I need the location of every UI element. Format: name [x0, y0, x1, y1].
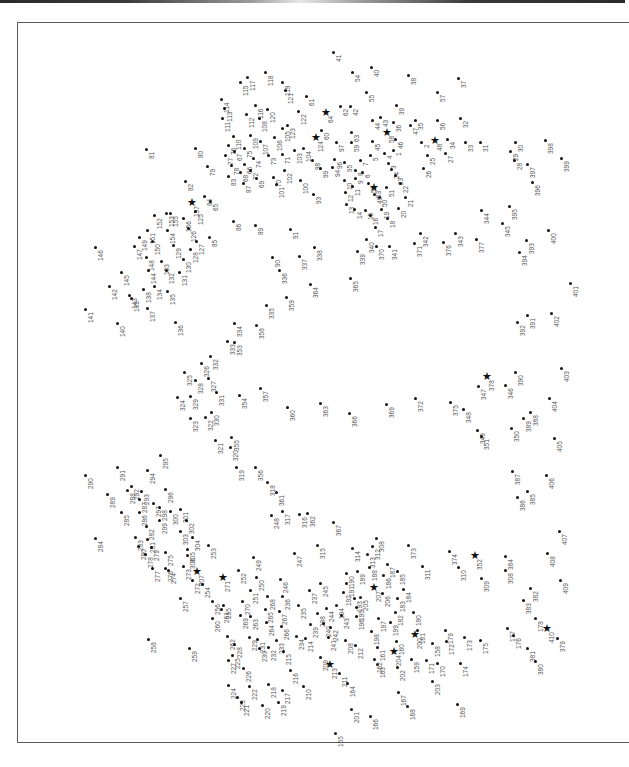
puzzle-dot: [279, 578, 282, 581]
puzzle-dot: [189, 395, 192, 398]
puzzle-dot: [436, 91, 439, 94]
dot-number-label: 373: [410, 548, 417, 559]
puzzle-dot: [407, 544, 410, 547]
puzzle-dot: [373, 193, 376, 196]
puzzle-dot: [255, 576, 258, 579]
puzzle-dot: [273, 136, 276, 139]
dot-number-label: 267: [281, 614, 288, 625]
puzzle-dot: [349, 105, 352, 108]
dot-number-label: 340: [368, 242, 375, 253]
dot-number-label: 218: [270, 687, 277, 698]
dot-number-label: 86: [235, 224, 242, 231]
puzzle-dot: [281, 127, 284, 130]
dot-number-label: 174: [462, 666, 469, 677]
dot-number-label: 135: [169, 294, 176, 305]
dot-number-label: 11: [354, 189, 361, 196]
dot-number-label: 339: [359, 254, 366, 265]
puzzle-dot: [553, 437, 556, 440]
puzzle-dot: [394, 611, 397, 614]
puzzle-dot: [264, 608, 267, 611]
dot-number-label: 9: [357, 180, 364, 184]
puzzle-dot: [164, 551, 167, 554]
puzzle-dot: [371, 119, 374, 122]
dot-number-label: 89: [257, 228, 264, 235]
puzzle-dot: [449, 401, 452, 404]
puzzle-dot: [158, 519, 161, 522]
puzzle-dot: [299, 179, 302, 182]
puzzle-dot: [345, 203, 348, 206]
dot-number-label: 30: [517, 145, 524, 152]
puzzle-dot: [343, 179, 346, 182]
dot-number-label: 7: [362, 162, 369, 166]
puzzle-dot: [165, 212, 168, 215]
dot-number-label: 302: [188, 523, 195, 534]
puzzle-dot: [446, 138, 449, 141]
dot-number-label: 326: [203, 366, 210, 377]
puzzle-dot: [254, 224, 257, 227]
puzzle-dot: [459, 117, 462, 120]
dot-number-label: 131: [181, 275, 188, 286]
puzzle-dot: [211, 617, 214, 620]
puzzle-dot: [246, 76, 249, 79]
puzzle-dot: [332, 51, 335, 54]
puzzle-dot: [243, 147, 246, 150]
puzzle-dot: [569, 282, 572, 285]
dot-number-label: 270: [244, 604, 251, 615]
puzzle-dot: [457, 566, 460, 569]
puzzle-dot: [187, 227, 190, 230]
dot-number-label: 229: [251, 640, 258, 651]
puzzle-dot: [534, 660, 537, 663]
dot-number-label: 361: [278, 495, 285, 506]
puzzle-dot: [182, 217, 185, 220]
puzzle-dot: [302, 147, 305, 150]
puzzle-dot: [480, 577, 483, 580]
puzzle-dot: [265, 621, 268, 624]
puzzle-dot: [145, 148, 148, 151]
dot-number-label: 296: [167, 492, 174, 503]
puzzle-dot: [397, 691, 400, 694]
dot-number-label: 254: [204, 587, 211, 598]
puzzle-dot: [516, 496, 519, 499]
dot-number-label: 317: [284, 514, 291, 525]
dot-number-label: 63: [353, 135, 360, 142]
dot-number-label: 319: [238, 470, 245, 481]
dot-number-label: 109: [252, 138, 259, 149]
dot-number-label: 226: [245, 671, 252, 682]
dot-number-label: 154: [169, 233, 176, 244]
dot-number-label: 221: [243, 705, 250, 716]
puzzle-dot: [327, 636, 330, 639]
dot-number-label: 294: [149, 473, 156, 484]
dot-number-label: 101: [278, 187, 285, 198]
puzzle-dot: [335, 604, 338, 607]
puzzle-dot: [431, 642, 434, 645]
dot-number-label: 35: [417, 123, 424, 130]
puzzle-dot: [194, 379, 197, 382]
dot-number-label: 170: [439, 666, 446, 677]
puzzle-dot: [319, 167, 322, 170]
puzzle-dot: [186, 548, 189, 551]
dot-number-label: 115: [242, 86, 249, 96]
puzzle-dot: [297, 110, 300, 113]
puzzle-dot: [237, 569, 240, 572]
dot-number-label: 27: [447, 156, 454, 163]
puzzle-dot: [130, 297, 133, 300]
puzzle-dot: [167, 569, 170, 572]
puzzle-dot: [456, 703, 459, 706]
dot-number-label: 33: [467, 145, 474, 152]
puzzle-dot: [395, 104, 398, 107]
dot-number-label: 6: [364, 174, 371, 178]
puzzle-dot: [402, 588, 405, 591]
puzzle-dot: [185, 519, 188, 522]
dot-number-label: 121: [287, 93, 294, 104]
puzzle-dot: [373, 658, 376, 661]
dot-number-label: 21: [407, 200, 414, 207]
puzzle-dot: [182, 565, 185, 568]
dot-number-label: 64: [327, 116, 334, 123]
puzzle-dot: [277, 701, 280, 704]
puzzle-dot: [392, 121, 395, 124]
dot-number-label: 344: [483, 213, 490, 224]
dot-number-label: 74: [255, 161, 262, 168]
puzzle-dot: [374, 226, 377, 229]
puzzle-dot: [227, 659, 230, 662]
